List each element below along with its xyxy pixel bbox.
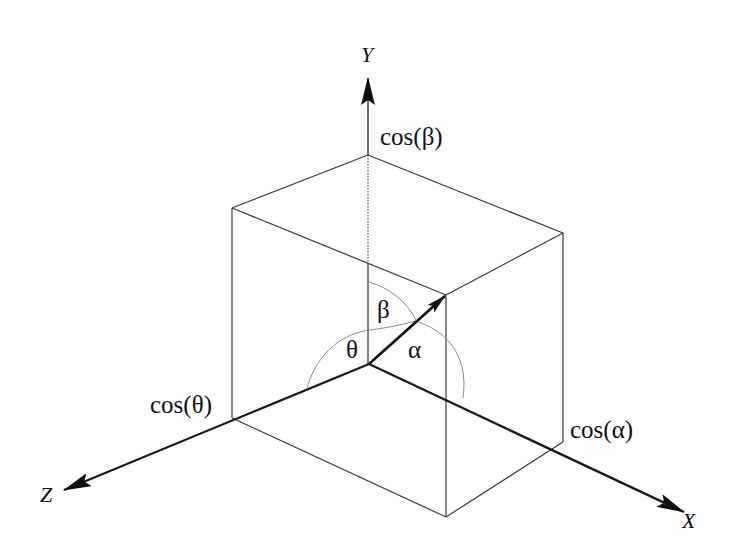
box-edge-top-right xyxy=(368,155,563,233)
z-axis-label: Z xyxy=(40,482,53,507)
cos-beta-label: cos(β) xyxy=(380,123,443,151)
cos-alpha-label: cos(α) xyxy=(570,416,633,444)
alpha-angle-label: α xyxy=(408,336,421,363)
x-axis-label: X xyxy=(681,508,697,533)
x-axis xyxy=(369,364,684,512)
box-edges xyxy=(232,155,563,517)
box-edge-top-left xyxy=(232,155,368,208)
z-axis xyxy=(64,364,369,490)
box-edge-bottom-right xyxy=(446,442,563,517)
beta-angle-label: β xyxy=(377,296,390,323)
y-axis-label: Y xyxy=(361,42,376,67)
theta-alpha-arc xyxy=(307,321,464,398)
box-edge-bottom-left xyxy=(232,418,446,517)
box-edge-top-front-left xyxy=(232,208,446,295)
direction-cosines-diagram: Y X Z cos(β) cos(θ) cos(α) β θ α xyxy=(0,0,736,538)
theta-angle-label: θ xyxy=(346,336,358,363)
cos-theta-label: cos(θ) xyxy=(150,391,212,419)
box-edge-top-front-right xyxy=(446,233,563,295)
